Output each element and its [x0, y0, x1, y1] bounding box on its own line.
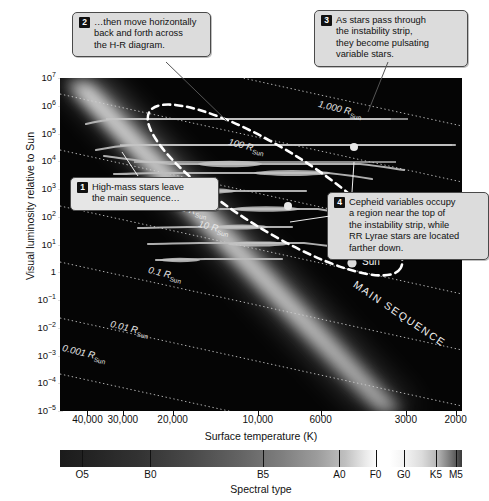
- y-tick-label: 10−4: [10, 378, 56, 388]
- callout-2[interactable]: 2…then move horizontallyback and forth a…: [72, 12, 211, 57]
- spectral-divider: [150, 450, 151, 467]
- spectral-gradient-bar: [60, 450, 462, 467]
- y-tick-label: 10−5: [10, 406, 56, 416]
- spectral-type-scale: O5B0B5A0F0G0K5M5 Spectral type: [60, 450, 462, 498]
- spectral-divider: [404, 450, 405, 467]
- spectral-tick-label: A0: [324, 469, 354, 480]
- x-axis-label: Surface temperature (K): [60, 430, 462, 442]
- x-tick-mark: [321, 411, 322, 416]
- spectral-type-label: Spectral type: [60, 483, 462, 495]
- y-tick-label: 107: [10, 73, 56, 83]
- x-tick-mark: [173, 411, 174, 416]
- callout-3-text: As stars pass throughthe instability str…: [336, 15, 429, 61]
- y-axis-label: Visual luminosity relative to Sun: [24, 116, 36, 296]
- y-tick-label: 10−2: [10, 323, 56, 333]
- y-tick-label: 10−1: [10, 295, 56, 305]
- spectral-tick-label: M5: [441, 469, 471, 480]
- y-tick-label: 10−3: [10, 351, 56, 361]
- y-tick-mark: [58, 411, 63, 412]
- callout-3-number: 3: [321, 15, 332, 26]
- callout-4[interactable]: 4Cepheid variables occupya region near t…: [327, 192, 489, 260]
- callout-3[interactable]: 3As stars pass throughthe instability st…: [314, 10, 468, 67]
- spectral-divider: [339, 450, 340, 467]
- x-tick-mark: [87, 411, 88, 416]
- spectral-divider: [436, 450, 437, 467]
- y-tick-label: 106: [10, 101, 56, 111]
- rr-lyrae-marker: [284, 202, 292, 210]
- spectral-divider: [376, 450, 377, 467]
- spectral-divider: [82, 450, 83, 467]
- cepheid-marker: [350, 143, 358, 151]
- callout-4-text: Cepheid variables occupya region near th…: [349, 197, 459, 254]
- callout-1[interactable]: 1High-mass stars leavethe main sequence…: [70, 177, 219, 211]
- x-tick-mark: [123, 411, 124, 416]
- callout-2-number: 2: [79, 17, 90, 28]
- callout-2-text: …then move horizontallyback and forth ac…: [94, 17, 196, 51]
- x-tick-mark: [406, 411, 407, 416]
- callout-1-text: High-mass stars leavethe main sequence…: [92, 182, 184, 205]
- spectral-tick-label: B5: [248, 469, 278, 480]
- callout-1-number: 1: [77, 182, 88, 193]
- spectral-tick-label: G0: [389, 469, 419, 480]
- spectral-divider: [263, 450, 264, 467]
- x-tick-mark: [456, 411, 457, 416]
- spectral-divider: [456, 450, 457, 467]
- spectral-tick-label: O5: [67, 469, 97, 480]
- spectral-tick-label: B0: [135, 469, 165, 480]
- x-tick-mark: [258, 411, 259, 416]
- spectral-tick-label: F0: [361, 469, 391, 480]
- callout-4-number: 4: [334, 197, 345, 208]
